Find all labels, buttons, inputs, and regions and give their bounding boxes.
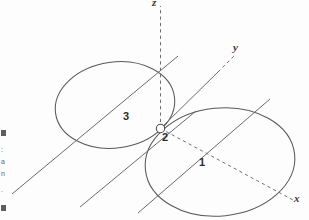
ellipse-group — [50, 54, 301, 220]
geometry-figure: z y x 1 2 3 : a n . — [0, 0, 309, 220]
margin-fragment-4: . — [1, 186, 3, 193]
y-axis-label: y — [233, 42, 238, 53]
region-label-2: 2 — [162, 132, 168, 143]
margin-fragment-3: n — [1, 170, 5, 177]
generator-line-2 — [80, 111, 196, 207]
y-axis-line-solid — [161, 72, 219, 129]
right-ellipse — [140, 100, 300, 220]
axes-group — [161, 6, 294, 200]
margin-fragment-2: a — [1, 158, 5, 165]
generator-lines-group — [12, 56, 270, 213]
figure-canvas — [0, 0, 309, 220]
margin-square-top — [1, 130, 6, 136]
margin-fragment-1: : — [1, 146, 3, 153]
generator-line-1 — [12, 56, 178, 194]
margin-square-bottom — [1, 205, 6, 211]
x-axis-line — [161, 129, 294, 201]
x-axis-label: x — [294, 193, 300, 204]
page-margin-artifacts: : a n . — [0, 0, 10, 220]
region-label-3: 3 — [123, 111, 129, 122]
region-label-1: 1 — [199, 157, 205, 168]
z-axis-label: z — [152, 0, 156, 8]
y-axis-line-dashed — [218, 56, 234, 72]
